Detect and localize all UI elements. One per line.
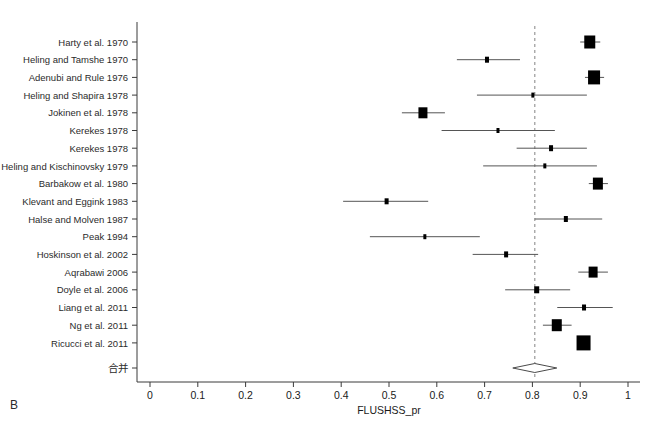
summary-row[interactable]: 合并 bbox=[108, 362, 557, 374]
forest-plot-canvas: 00.10.20.30.40.50.60.70.80.91FLUSHSS_prH… bbox=[0, 0, 647, 429]
forest-row[interactable]: Liang et al. 2011 bbox=[58, 302, 612, 313]
forest-row[interactable]: Barbakow et al. 1980 bbox=[39, 178, 608, 190]
study-label: Jokinen et al. 1978 bbox=[48, 107, 128, 118]
study-label: Heling and Tamshe 1970 bbox=[23, 54, 128, 65]
effect-estimate-marker bbox=[504, 251, 508, 257]
study-label: Heling and Kischinovsky 1979 bbox=[1, 161, 128, 172]
panel-label: B bbox=[10, 398, 18, 412]
study-label: Liang et al. 2011 bbox=[58, 302, 128, 313]
x-tick-label: 1 bbox=[625, 389, 631, 401]
forest-row[interactable]: Hoskinson et al. 2002 bbox=[37, 249, 539, 260]
effect-estimate-marker bbox=[577, 335, 591, 350]
study-label: Klevant and Eggink 1983 bbox=[22, 196, 128, 207]
forest-row[interactable]: Doyle et al. 2006 bbox=[57, 284, 570, 295]
study-label: Kerekes 1978 bbox=[69, 143, 128, 154]
effect-estimate-marker bbox=[582, 305, 586, 311]
forest-row[interactable]: Harty et al. 1970 bbox=[58, 36, 600, 49]
x-tick-label: 0.2 bbox=[238, 389, 253, 401]
study-label: Barbakow et al. 1980 bbox=[39, 178, 128, 189]
forest-row[interactable]: Jokinen et al. 1978 bbox=[48, 107, 445, 118]
study-label: Ricucci et al. 2011 bbox=[51, 338, 128, 349]
study-label: Kerekes 1978 bbox=[69, 125, 128, 136]
study-label: Hoskinson et al. 2002 bbox=[37, 249, 128, 260]
study-rows: Harty et al. 1970Heling and Tamshe 1970A… bbox=[1, 36, 612, 351]
study-label: Halse and Molven 1987 bbox=[28, 214, 128, 225]
effect-estimate-marker bbox=[423, 234, 426, 239]
x-tick-label: 0.3 bbox=[286, 389, 301, 401]
forest-plot-figure: 00.10.20.30.40.50.60.70.80.91FLUSHSS_prH… bbox=[0, 0, 647, 429]
study-label: Adenubi and Rule 1976 bbox=[29, 72, 128, 83]
effect-estimate-marker bbox=[593, 178, 603, 190]
forest-row[interactable]: Aqrabawi 2006 bbox=[65, 267, 608, 278]
effect-estimate-marker bbox=[418, 107, 427, 118]
x-tick-label: 0.5 bbox=[382, 389, 397, 401]
effect-estimate-marker bbox=[584, 36, 595, 49]
x-tick-label: 0.8 bbox=[525, 389, 540, 401]
study-label: Harty et al. 1970 bbox=[58, 37, 128, 48]
x-tick-label: 0.1 bbox=[190, 389, 205, 401]
study-label: Doyle et al. 2006 bbox=[57, 284, 128, 295]
study-label: Heling and Shapira 1978 bbox=[23, 90, 128, 101]
x-tick-label: 0.7 bbox=[477, 389, 492, 401]
x-tick-label: 0.4 bbox=[334, 389, 349, 401]
x-tick-label: 0 bbox=[147, 389, 153, 401]
forest-row[interactable]: Ng et al. 2011 bbox=[70, 319, 572, 331]
effect-estimate-marker bbox=[534, 286, 539, 293]
forest-row[interactable]: Adenubi and Rule 1976 bbox=[29, 70, 604, 84]
forest-row[interactable]: Kerekes 1978 bbox=[69, 143, 587, 154]
effect-estimate-marker bbox=[588, 70, 600, 84]
effect-estimate-marker bbox=[531, 93, 534, 98]
summary-diamond bbox=[513, 364, 557, 373]
study-label: Ng et al. 2011 bbox=[70, 320, 128, 331]
effect-estimate-marker bbox=[549, 145, 553, 151]
x-tick-label: 0.6 bbox=[429, 389, 444, 401]
study-label: Peak 1994 bbox=[83, 231, 128, 242]
x-tick-group: 00.10.20.30.40.50.60.70.80.91 bbox=[147, 382, 631, 401]
forest-row[interactable]: Halse and Molven 1987 bbox=[28, 214, 602, 225]
forest-row[interactable]: Klevant and Eggink 1983 bbox=[22, 196, 428, 207]
forest-row[interactable]: Peak 1994 bbox=[83, 231, 480, 242]
forest-row[interactable]: Kerekes 1978 bbox=[69, 125, 554, 136]
forest-row[interactable]: Heling and Tamshe 1970 bbox=[23, 54, 520, 65]
x-tick-label: 0.9 bbox=[573, 389, 588, 401]
effect-estimate-marker bbox=[485, 57, 489, 63]
study-label: Aqrabawi 2006 bbox=[65, 267, 128, 278]
x-axis-title: FLUSHSS_pr bbox=[357, 404, 421, 416]
forest-row[interactable]: Heling and Kischinovsky 1979 bbox=[1, 161, 597, 172]
effect-estimate-marker bbox=[496, 128, 499, 133]
summary-label: 合并 bbox=[108, 362, 128, 374]
effect-estimate-marker bbox=[589, 267, 598, 278]
effect-estimate-marker bbox=[543, 163, 546, 168]
effect-estimate-marker bbox=[564, 216, 568, 222]
forest-row[interactable]: Ricucci et al. 2011 bbox=[51, 335, 590, 350]
forest-row[interactable]: Heling and Shapira 1978 bbox=[23, 90, 586, 101]
effect-estimate-marker bbox=[385, 198, 389, 204]
effect-estimate-marker bbox=[552, 319, 562, 331]
